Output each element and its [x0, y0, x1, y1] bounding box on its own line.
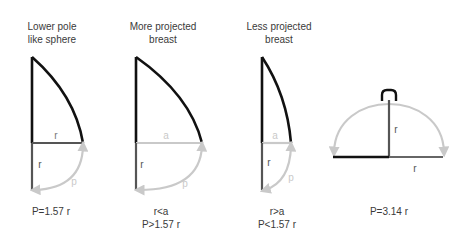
title-line-1: Lower pole	[28, 20, 77, 33]
formula-line-2: P<1.57 r	[258, 218, 296, 231]
title-line-1: More projected	[130, 20, 197, 33]
arc-label: p	[288, 172, 294, 183]
panel-less-projected: a r p	[262, 57, 294, 190]
breast-outline-curve	[136, 57, 202, 143]
title-line-1: Less projected	[246, 20, 311, 33]
panel-lower-pole-sphere: r r p	[32, 57, 83, 190]
panel-title-more-projected: More projected breast	[130, 20, 197, 46]
formula-line-1: P=3.14 r	[370, 205, 408, 218]
panel-title-less-projected: Less projected breast	[246, 20, 311, 46]
arc-label: p	[182, 178, 188, 189]
horizontal-label: r	[413, 163, 417, 174]
arc-label: p	[71, 176, 77, 187]
vertical-label: r	[140, 159, 144, 170]
perimeter-arc-arrow	[265, 146, 291, 190]
title-line-2: like sphere	[28, 33, 77, 46]
vertical-label: r	[267, 157, 271, 168]
title-line-2: breast	[130, 33, 197, 46]
formula-full-sphere: P=3.14 r	[370, 205, 408, 218]
title-line-2: breast	[246, 33, 311, 46]
formula-less-projected: r>a P<1.57 r	[258, 205, 296, 231]
horizontal-label: a	[272, 130, 278, 141]
panel-more-projected: a r p	[136, 57, 202, 190]
vertical-label: r	[394, 124, 398, 135]
horizontal-label: a	[163, 130, 169, 141]
formula-lower-pole: P=1.57 r	[32, 205, 70, 218]
formula-more-projected: r<a P>1.57 r	[142, 205, 180, 231]
horizontal-label: r	[54, 130, 58, 141]
formula-line-1: r<a	[142, 205, 180, 218]
formula-line-2: P>1.57 r	[142, 218, 180, 231]
vertical-label: r	[38, 159, 42, 170]
formula-line-1: r>a	[258, 205, 296, 218]
formula-line-1: P=1.57 r	[32, 205, 70, 218]
breast-projection-diagram: r r p a r p a r p	[0, 0, 462, 238]
panel-title-lower-pole: Lower pole like sphere	[28, 20, 77, 46]
panel-full-sphere: r r	[333, 90, 444, 174]
nipple-icon	[382, 90, 396, 101]
perimeter-arc-arrow	[139, 146, 202, 190]
